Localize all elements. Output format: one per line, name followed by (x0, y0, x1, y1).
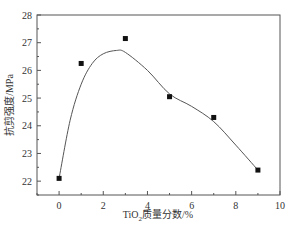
data-point-marker (57, 176, 62, 181)
data-point-marker (211, 115, 216, 120)
data-point-marker (79, 61, 84, 66)
y-tick-label: 23 (22, 148, 32, 159)
y-tick-label: 27 (22, 37, 32, 48)
plot-area (57, 36, 261, 181)
y-axis-title: 抗剪强度/MPa (3, 74, 15, 136)
chart: 024681022232425262728 TiO2质量分数/% 抗剪强度/MP… (0, 0, 294, 231)
data-point-marker (167, 94, 172, 99)
fitted-curve (59, 50, 258, 178)
x-tick-label: 8 (233, 200, 238, 211)
data-point-marker (255, 168, 260, 173)
y-tick-label: 26 (22, 65, 32, 76)
data-point-marker (123, 36, 128, 41)
plot-frame (37, 15, 280, 195)
y-tick-label: 25 (22, 93, 32, 104)
x-tick-label: 10 (275, 200, 285, 211)
x-tick-label: 2 (101, 200, 106, 211)
x-axis-title: TiO2质量分数/% (123, 208, 193, 223)
y-tick-label: 24 (22, 120, 32, 131)
y-tick-label: 28 (22, 10, 32, 21)
y-tick-label: 22 (22, 176, 32, 187)
x-tick-label: 0 (57, 200, 62, 211)
